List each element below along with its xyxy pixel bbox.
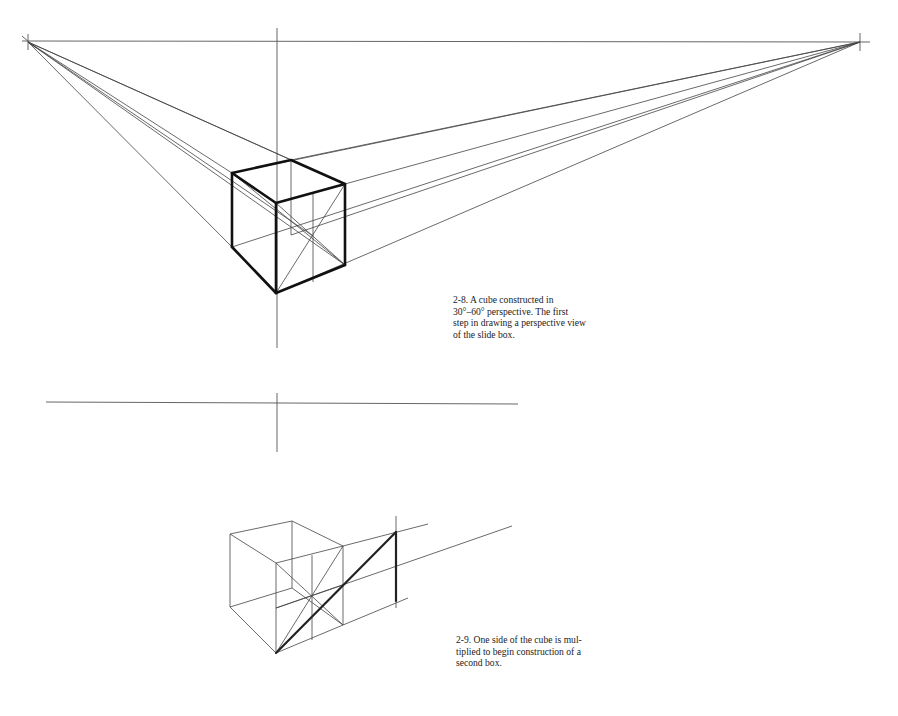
- figure-2-9-construction: [46, 393, 518, 653]
- horizon-line-2: [46, 402, 518, 404]
- figure-2-8-caption: 2-8. A cube constructed in 30°–60° persp…: [453, 294, 608, 340]
- figure-2-8-construction: [22, 28, 870, 348]
- multiplying-diagonal: [276, 532, 396, 653]
- cube-wireframe: [230, 521, 343, 653]
- figure-2-9-caption: 2-9. One side of the cube is mul- tiplie…: [456, 634, 614, 669]
- horizon-line: [22, 41, 870, 42]
- perspective-drawing: [0, 0, 898, 716]
